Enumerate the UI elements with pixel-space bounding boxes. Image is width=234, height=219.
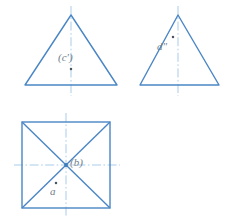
projection-drawing-canvas	[0, 0, 234, 219]
side-view-triangle	[140, 6, 219, 96]
label-c-prime: (c')	[58, 52, 73, 63]
technical-drawing-page: (c') d″ (b) a	[0, 0, 234, 219]
point-b-marker	[64, 163, 68, 167]
point-c-marker	[70, 68, 73, 71]
label-b-paren: (b)	[70, 157, 83, 168]
point-d-marker	[172, 36, 175, 39]
point-a-marker	[55, 182, 58, 185]
top-view-square	[14, 113, 120, 217]
label-d-double-prime: d″	[157, 41, 167, 52]
label-a: a	[50, 186, 56, 197]
side-view-triangle-outline	[140, 15, 219, 85]
